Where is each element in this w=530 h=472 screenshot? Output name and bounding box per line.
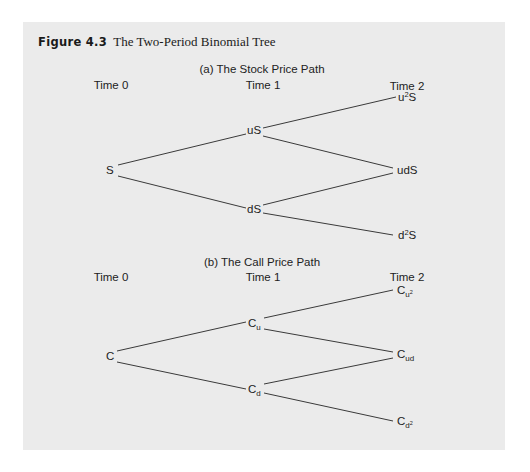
node-cd: Cd <box>248 384 261 396</box>
branch-cu-to-cud <box>264 329 393 352</box>
branch-cd-to-cud <box>264 358 393 384</box>
node-dds: d2S <box>398 230 416 242</box>
node-s: S <box>106 165 114 177</box>
node-uds: udS <box>397 165 417 177</box>
branch-s-to-ds <box>118 176 246 208</box>
panel-b-time-2: Time 2 <box>390 272 425 284</box>
node-c: C <box>106 351 114 363</box>
panel-b-subtitle: (b) The Call Price Path <box>204 257 320 269</box>
branch-cd-to-cdd <box>264 393 393 421</box>
panel-b-time-0: Time 0 <box>94 272 129 284</box>
panel-a-subtitle: (a) The Stock Price Path <box>199 64 324 76</box>
node-ds: dS <box>247 204 261 216</box>
branch-ds-to-uds <box>263 173 393 205</box>
branch-us-to-uus <box>263 97 396 128</box>
node-cud: Cud <box>397 349 414 361</box>
branch-ds-to-dds <box>263 213 393 235</box>
branch-cu-to-cuu <box>264 290 393 318</box>
panel-a-time-1: Time 1 <box>246 80 281 92</box>
node-uus: u2S <box>398 92 416 104</box>
branch-c-to-cd <box>117 362 246 389</box>
node-us: uS <box>247 125 261 137</box>
panel-b-time-1: Time 1 <box>246 272 281 284</box>
branch-s-to-us <box>118 134 246 165</box>
panel-a-time-0: Time 0 <box>94 80 129 92</box>
branch-us-to-uds <box>263 136 393 168</box>
node-cdd: Cd2 <box>397 416 413 428</box>
branch-c-to-cu <box>117 322 246 351</box>
node-cu: Cu <box>248 318 261 330</box>
node-cuu: Cu2 <box>397 285 413 297</box>
